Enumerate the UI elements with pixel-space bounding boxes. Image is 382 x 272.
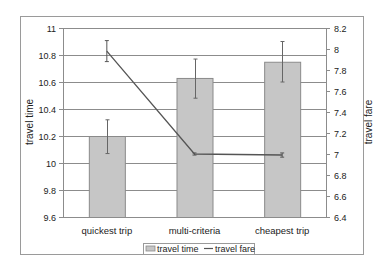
y-tick-label: 11 bbox=[47, 24, 56, 34]
y-tick-label: 10.2 bbox=[38, 132, 56, 142]
y2-tick-label: 7.4 bbox=[334, 108, 347, 118]
y2-tick-label: 6.4 bbox=[334, 213, 347, 223]
y2-tick-label: 8 bbox=[334, 45, 339, 55]
y-tick-label: 10.4 bbox=[38, 105, 56, 115]
bar-travel-time bbox=[265, 62, 301, 217]
y2-tick-label: 7.8 bbox=[334, 66, 347, 76]
x-tick-label: quickest trip bbox=[81, 225, 132, 236]
y2-tick-label: 6.8 bbox=[334, 171, 347, 181]
y-tick-label: 9.8 bbox=[43, 186, 56, 196]
y2-tick-label: 7.2 bbox=[334, 129, 347, 139]
chart: 9.69.81010.210.410.610.8116.46.66.877.27… bbox=[0, 0, 382, 272]
y-tick-label: 9.6 bbox=[43, 213, 56, 223]
y2-tick-label: 6.6 bbox=[334, 192, 347, 202]
chart-svg: 9.69.81010.210.410.610.8116.46.66.877.27… bbox=[0, 0, 382, 272]
legend-bar-swatch-icon bbox=[146, 246, 155, 251]
y-axis-label: travel time bbox=[24, 99, 35, 146]
y2-axis-label: travel fare bbox=[363, 99, 374, 144]
x-tick-label: cheapest trip bbox=[255, 225, 309, 236]
bar-travel-time bbox=[177, 78, 213, 217]
y2-tick-label: 7.6 bbox=[334, 87, 347, 97]
legend-label-travel-fare: travel fare bbox=[215, 244, 255, 254]
y2-tick-label: 7 bbox=[334, 150, 339, 160]
x-tick-label: multi-criteria bbox=[169, 225, 221, 236]
y-tick-label: 10.6 bbox=[38, 78, 56, 88]
y-tick-label: 10 bbox=[46, 159, 56, 169]
legend-label-travel-time: travel time bbox=[157, 244, 199, 254]
y-tick-label: 10.8 bbox=[38, 51, 56, 61]
y2-tick-label: 8.2 bbox=[334, 24, 347, 34]
legend: travel time travel fare bbox=[144, 244, 256, 255]
